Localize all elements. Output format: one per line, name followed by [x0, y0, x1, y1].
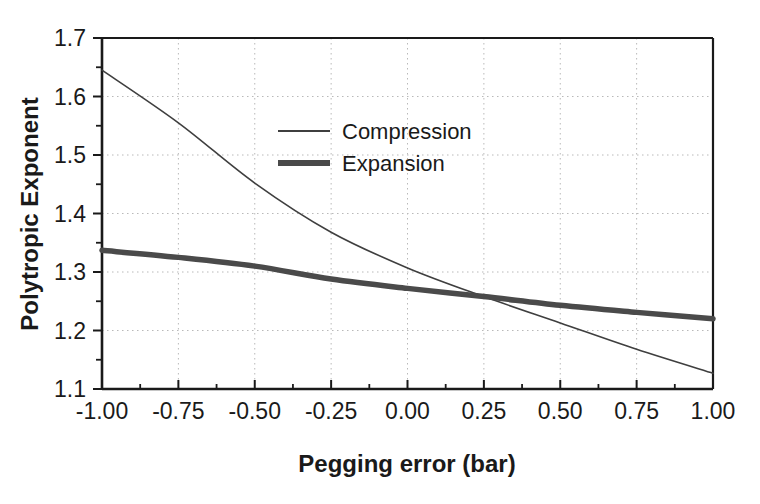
x-tick-label: 0.00 [385, 398, 430, 424]
legend-label-compression: Compression [342, 119, 472, 144]
x-tick-label: -0.25 [305, 398, 357, 424]
x-tick-label: 1.00 [691, 398, 736, 424]
y-tick-label: 1.6 [54, 84, 86, 110]
y-tick-label: 1.4 [54, 201, 86, 227]
x-tick-label: 0.25 [461, 398, 506, 424]
x-tick-labels: -1.00-0.75-0.50-0.250.000.250.500.751.00 [76, 398, 736, 424]
y-tick-label: 1.5 [54, 142, 86, 168]
x-tick-label: 0.75 [614, 398, 659, 424]
legend-label-expansion: Expansion [342, 151, 445, 176]
y-axis-title: Polytropic Exponent [16, 97, 43, 330]
y-tick-label: 1.7 [54, 25, 86, 51]
y-tick-label: 1.1 [54, 376, 86, 402]
polytropic-exponent-chart: -1.00-0.75-0.50-0.250.000.250.500.751.00… [0, 0, 760, 504]
y-tick-label: 1.3 [54, 259, 86, 285]
x-tick-label: 0.50 [538, 398, 583, 424]
x-tick-label: -0.50 [229, 398, 281, 424]
x-tick-label: -0.75 [152, 398, 204, 424]
y-tick-label: 1.2 [54, 318, 86, 344]
x-axis-title: Pegging error (bar) [298, 450, 515, 477]
